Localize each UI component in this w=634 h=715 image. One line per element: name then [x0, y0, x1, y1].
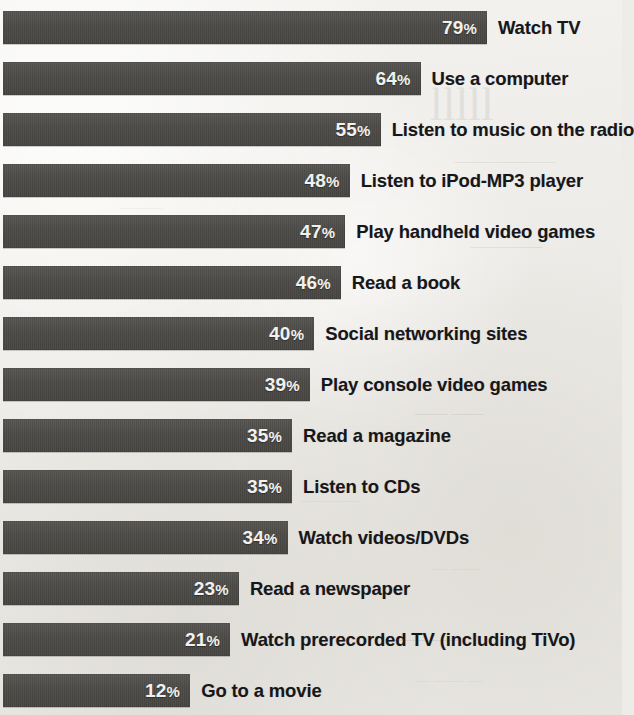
- percent-sign: %: [463, 20, 477, 37]
- percent-sign: %: [397, 71, 411, 88]
- chart-bar-row: 64%Use a computer: [0, 62, 622, 95]
- chart-bar-row: 40%Social networking sites: [0, 317, 622, 350]
- chart-bar-row: 48%Listen to iPod-MP3 player: [0, 164, 622, 197]
- bar-value-label: 64%: [375, 62, 420, 95]
- bar-value-label: 47%: [300, 215, 345, 248]
- bar-value-number: 35: [247, 425, 269, 446]
- bar-value-label: 55%: [336, 113, 381, 146]
- chart-bar-row: 39%Play console video games: [0, 368, 622, 401]
- percent-sign: %: [322, 224, 336, 241]
- chart-bar-row: 35%Listen to CDs: [0, 470, 622, 503]
- bar-value-number: 35: [247, 476, 269, 497]
- bar-rect: [3, 266, 341, 299]
- bar-rect: [3, 113, 381, 146]
- bar-value-label: 48%: [305, 164, 350, 197]
- bar-value-label: 35%: [247, 419, 292, 452]
- bar-rect: [3, 215, 345, 248]
- percent-sign: %: [206, 632, 220, 649]
- percent-sign: %: [269, 479, 283, 496]
- bar-rect: [3, 164, 350, 197]
- bar-category-label: Watch videos/DVDs: [299, 521, 470, 554]
- bar-rect: [3, 317, 314, 350]
- chart-bar-row: 12%Go to a movie: [0, 674, 622, 707]
- bar-category-label: Read a newspaper: [250, 572, 410, 605]
- bar-category-label: Go to a movie: [201, 674, 321, 707]
- bar-value-number: 46: [296, 272, 318, 293]
- bar-value-label: 35%: [247, 470, 292, 503]
- bar-value-number: 40: [269, 323, 291, 344]
- chart-bar-row: 47%Play handheld video games: [0, 215, 622, 248]
- bar-category-label: Read a book: [352, 266, 460, 299]
- bar-value-label: 79%: [442, 11, 487, 44]
- bar-value-number: 48: [305, 170, 327, 191]
- percent-sign: %: [326, 173, 340, 190]
- bar-category-label: Read a magazine: [303, 419, 451, 452]
- bar-value-number: 79: [442, 17, 464, 38]
- chart-bar-row: 79%Watch TV: [0, 11, 622, 44]
- bar-category-label: Listen to CDs: [303, 470, 420, 503]
- bar-category-label: Listen to music on the radio: [392, 113, 634, 146]
- bar-category-label: Play console video games: [321, 368, 548, 401]
- bar-category-label: Play handheld video games: [356, 215, 595, 248]
- bar-value-number: 39: [265, 374, 287, 395]
- bar-value-number: 23: [194, 578, 216, 599]
- bar-rect: [3, 62, 421, 95]
- percent-sign: %: [286, 377, 300, 394]
- bar-value-label: 34%: [243, 521, 288, 554]
- chart-bar-row: 21%Watch prerecorded TV (including TiVo): [0, 623, 622, 656]
- bar-value-label: 12%: [145, 674, 190, 707]
- percent-sign: %: [357, 122, 371, 139]
- bar-value-number: 34: [243, 527, 265, 548]
- percent-sign: %: [167, 683, 181, 700]
- percent-sign: %: [269, 428, 283, 445]
- percent-sign: %: [317, 275, 331, 292]
- bar-value-label: 39%: [265, 368, 310, 401]
- bar-value-label: 23%: [194, 572, 239, 605]
- bar-category-label: Watch TV: [498, 11, 580, 44]
- bar-category-label: Listen to iPod-MP3 player: [361, 164, 583, 197]
- bar-value-number: 12: [145, 680, 167, 701]
- percent-sign: %: [264, 530, 278, 547]
- bar-value-number: 55: [336, 119, 358, 140]
- percent-sign: %: [291, 326, 305, 343]
- chart-bar-row: 23%Read a newspaper: [0, 572, 622, 605]
- bar-value-number: 64: [375, 68, 397, 89]
- bar-value-number: 21: [185, 629, 207, 650]
- percent-sign: %: [215, 581, 229, 598]
- bar-value-label: 40%: [269, 317, 314, 350]
- bar-value-number: 47: [300, 221, 322, 242]
- chart-bar-row: 46%Read a book: [0, 266, 622, 299]
- chart-bar-row: 34%Watch videos/DVDs: [0, 521, 622, 554]
- bar-value-label: 46%: [296, 266, 341, 299]
- chart-bar-row: 35%Read a magazine: [0, 419, 622, 452]
- bar-value-label: 21%: [185, 623, 230, 656]
- bar-category-label: Social networking sites: [325, 317, 527, 350]
- bar-rect: [3, 11, 487, 44]
- bar-category-label: Use a computer: [432, 62, 569, 95]
- bar-category-label: Watch prerecorded TV (including TiVo): [241, 623, 575, 656]
- chart-bar-row: 55%Listen to music on the radio: [0, 113, 622, 146]
